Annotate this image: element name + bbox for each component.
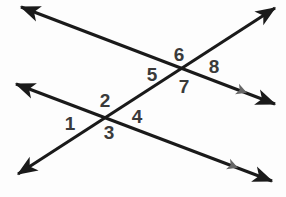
angle-label-7: 7 (179, 77, 190, 96)
angle-label-1: 1 (65, 114, 76, 133)
angle-label-8: 8 (209, 57, 220, 76)
angle-label-6: 6 (174, 45, 185, 64)
angle-label-3: 3 (104, 123, 115, 142)
angle-label-2: 2 (100, 91, 111, 110)
geometry-canvas (0, 0, 286, 197)
line-group-transversal (18, 8, 275, 174)
line-group-parallel-lower (16, 84, 272, 181)
angle-label-4: 4 (132, 107, 143, 126)
angle-label-5: 5 (147, 65, 158, 84)
geometry-diagram: 1 2 3 4 5 6 7 8 (0, 0, 286, 197)
line-transversal (18, 8, 275, 174)
